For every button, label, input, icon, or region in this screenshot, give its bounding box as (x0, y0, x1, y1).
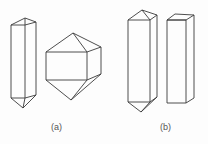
crystal-a-prism (11, 18, 36, 108)
panel-label-b: (b) (160, 122, 171, 132)
crystal-b-box (167, 14, 194, 103)
crystal-figure: (a) (b) (0, 0, 208, 144)
crystal-a-bipyramid (46, 33, 101, 100)
crystal-b-prism (128, 10, 157, 112)
panel-label-a: (a) (51, 122, 62, 132)
crystal-drawings (0, 0, 208, 144)
